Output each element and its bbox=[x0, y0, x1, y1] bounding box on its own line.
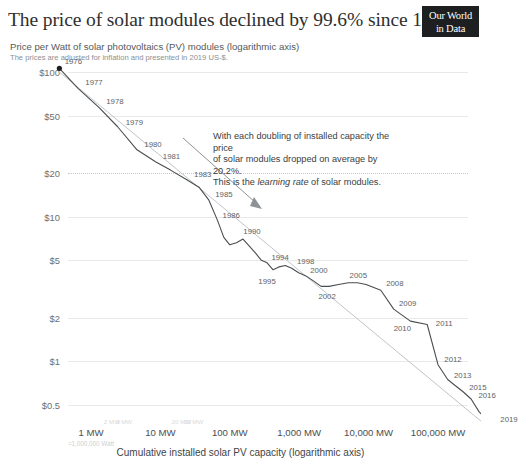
year-label: 1977 bbox=[85, 78, 102, 87]
year-label: 2016 bbox=[478, 391, 495, 400]
year-label: 1976 bbox=[65, 57, 82, 66]
learning-rate-annotation: With each doubling of installed capacity… bbox=[213, 131, 403, 189]
annotation-line3-pre: This is the bbox=[213, 177, 257, 187]
start-point-marker bbox=[57, 66, 62, 71]
annotation-emphasis: learning rate bbox=[257, 177, 308, 187]
year-label: 2008 bbox=[386, 279, 403, 288]
year-label: 2000 bbox=[310, 265, 327, 274]
year-label: 1995 bbox=[258, 276, 275, 285]
x-axis-title: Cumulative installed solar PV capacity (… bbox=[117, 447, 365, 458]
year-label: 2011 bbox=[436, 319, 453, 328]
year-label: 1980 bbox=[144, 139, 161, 148]
year-label: 2019 bbox=[500, 415, 517, 424]
annotation-line-2: of solar modules dropped on average by 2… bbox=[213, 154, 403, 177]
learning-curve-trendline bbox=[59, 72, 481, 431]
year-label: 1994 bbox=[271, 252, 288, 261]
year-label: 2012 bbox=[444, 354, 461, 363]
year-label: 1986 bbox=[223, 210, 240, 219]
year-label: 2005 bbox=[350, 270, 367, 279]
year-label: 2009 bbox=[399, 299, 416, 308]
year-label: 2002 bbox=[318, 292, 335, 301]
annotation-line-1: With each doubling of installed capacity… bbox=[213, 131, 403, 154]
year-label: 1990 bbox=[243, 227, 260, 236]
megawatt-definition-note: =1,000,000 Watt bbox=[68, 440, 114, 447]
year-label: 1979 bbox=[126, 117, 143, 126]
annotation-line-3: This is the learning rate of solar modul… bbox=[213, 177, 403, 189]
year-label: 1978 bbox=[106, 97, 123, 106]
year-label: 1983 bbox=[194, 169, 211, 178]
year-label: 2010 bbox=[394, 324, 411, 333]
annotation-line3-post: of solar modules. bbox=[309, 177, 382, 187]
year-label: 1985 bbox=[215, 190, 232, 199]
year-label: 1981 bbox=[163, 151, 180, 160]
year-label: 2013 bbox=[454, 370, 471, 379]
